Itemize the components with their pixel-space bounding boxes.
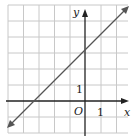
y-axis-label: y xyxy=(72,6,80,19)
graph-line xyxy=(7,6,129,128)
x-axis xyxy=(6,98,129,104)
x-tick-label: 1 xyxy=(97,106,104,119)
y-tick-label: 1 xyxy=(76,83,83,96)
origin-label: O xyxy=(74,105,83,118)
x-axis-arrow-icon xyxy=(121,98,129,104)
coordinate-graph: y x O 1 1 xyxy=(0,0,133,137)
y-axis-arrow-icon xyxy=(82,9,88,17)
x-axis-label: x xyxy=(124,106,131,119)
